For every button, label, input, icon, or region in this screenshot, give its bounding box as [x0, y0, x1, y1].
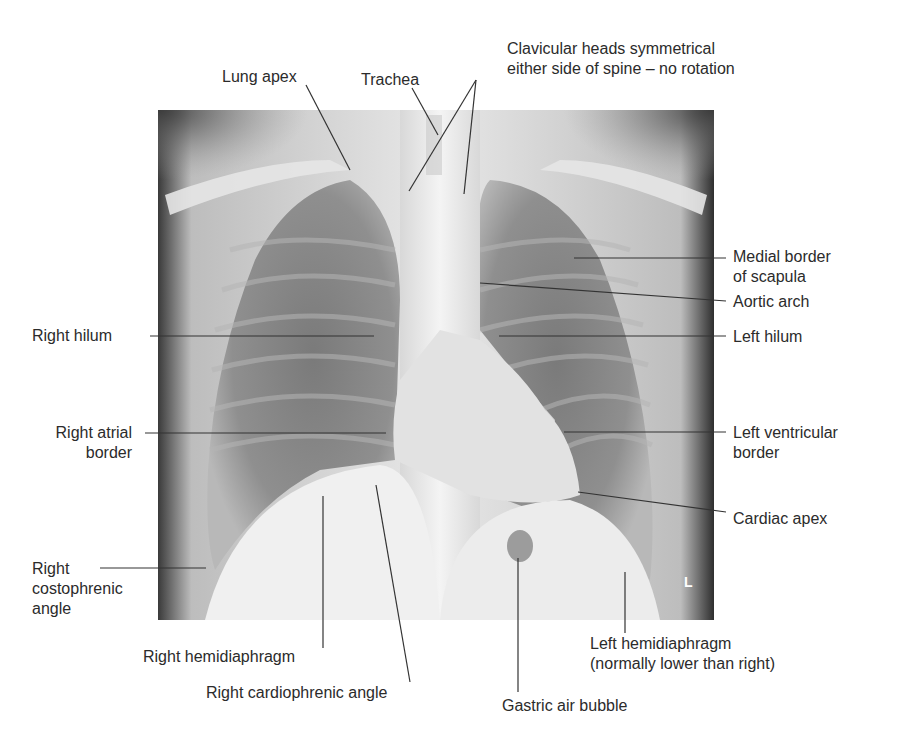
label-left-hemidiaphragm-line2: (normally lower than right): [590, 654, 775, 674]
label-left-hemidiaphragm-line1: Left hemidiaphragm: [590, 634, 775, 654]
label-gastric-air-bubble: Gastric air bubble: [502, 696, 627, 716]
side-marker: L: [684, 574, 693, 590]
label-costophrenic-line1: Right: [32, 559, 123, 579]
label-costophrenic-line3: angle: [32, 599, 123, 619]
label-costophrenic-line2: costophrenic: [32, 579, 123, 599]
label-left-hemidiaphragm: Left hemidiaphragm (normally lower than …: [590, 634, 775, 674]
label-left-hilum: Left hilum: [733, 327, 802, 347]
label-scapula-line1: Medial border: [733, 247, 831, 267]
label-right-atrial-line2: border: [32, 443, 132, 463]
label-clavicular-line1: Clavicular heads symmetrical: [507, 39, 735, 59]
label-right-atrial-line1: Right atrial: [32, 423, 132, 443]
label-left-ventricular-border: Left ventricular border: [733, 423, 838, 463]
label-clavicular-line2: either side of spine – no rotation: [507, 59, 735, 79]
chest-xray-image: L: [0, 0, 899, 743]
label-left-ventricular-line2: border: [733, 443, 838, 463]
label-medial-border-scapula: Medial border of scapula: [733, 247, 831, 287]
label-right-hilum: Right hilum: [32, 326, 112, 346]
label-left-ventricular-line1: Left ventricular: [733, 423, 838, 443]
label-clavicular-heads: Clavicular heads symmetrical either side…: [507, 39, 735, 79]
label-cardiac-apex: Cardiac apex: [733, 509, 827, 529]
label-trachea: Trachea: [361, 70, 419, 90]
label-right-costophrenic-angle: Right costophrenic angle: [32, 559, 123, 619]
label-right-hemidiaphragm: Right hemidiaphragm: [143, 647, 295, 667]
label-right-cardiophrenic-angle: Right cardiophrenic angle: [206, 683, 387, 703]
label-lung-apex: Lung apex: [222, 67, 297, 87]
label-aortic-arch: Aortic arch: [733, 292, 809, 312]
label-right-atrial-border: Right atrial border: [32, 423, 132, 463]
label-scapula-line2: of scapula: [733, 267, 831, 287]
